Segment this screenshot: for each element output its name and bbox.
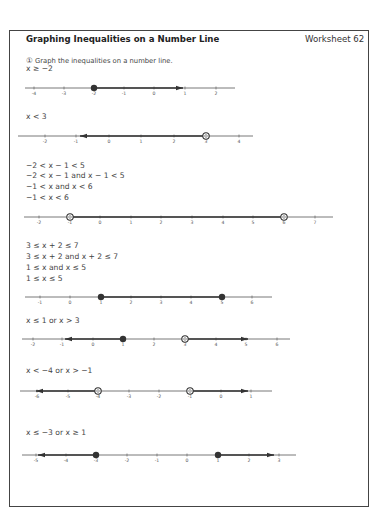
tick-label: -5 bbox=[66, 394, 71, 399]
tick-label: 0 bbox=[220, 394, 223, 399]
tick-label: -2 bbox=[43, 139, 48, 144]
tick-label: -4 bbox=[96, 394, 101, 399]
tick-label: 4 bbox=[215, 342, 218, 347]
tick-label: -2 bbox=[125, 458, 130, 463]
tick-label: -1 bbox=[38, 300, 43, 305]
number-line: -6-5-4-3-2-101 bbox=[20, 388, 272, 399]
tick-label: 5 bbox=[221, 300, 224, 305]
tick-label: 3 bbox=[184, 342, 187, 347]
number-line: -10123456 bbox=[25, 294, 272, 305]
closed-dot-icon bbox=[219, 294, 225, 300]
tick-label: 5 bbox=[252, 220, 255, 225]
arrow-left-icon bbox=[38, 453, 45, 457]
tick-label: -4 bbox=[32, 91, 37, 96]
tick-label: -2 bbox=[31, 342, 36, 347]
tick-label: 6 bbox=[251, 300, 254, 305]
tick-label: 1 bbox=[100, 300, 103, 305]
number-line: -2-10123456 bbox=[22, 336, 290, 347]
tick-label: 2 bbox=[153, 342, 156, 347]
tick-label: 0 bbox=[108, 139, 111, 144]
closed-dot-icon bbox=[98, 294, 104, 300]
number-line: -2-101234 bbox=[18, 133, 253, 144]
tick-label: -1 bbox=[60, 342, 65, 347]
tick-label: 1 bbox=[184, 91, 187, 96]
tick-label: 3 bbox=[278, 458, 281, 463]
arrow-left-icon bbox=[65, 337, 72, 341]
tick-label: -2 bbox=[92, 91, 97, 96]
tick-label: 0 bbox=[92, 342, 95, 347]
tick-label: 2 bbox=[130, 300, 133, 305]
open-circle-icon bbox=[187, 388, 193, 394]
closed-dot-icon bbox=[93, 452, 99, 458]
arrow-right-icon bbox=[267, 453, 274, 457]
tick-label: 3 bbox=[160, 300, 163, 305]
arrow-left-icon bbox=[80, 134, 87, 138]
tick-label: -6 bbox=[35, 394, 40, 399]
open-circle-icon bbox=[182, 336, 188, 342]
tick-label: 1 bbox=[140, 139, 143, 144]
tick-label: 3 bbox=[205, 139, 208, 144]
tick-label: 2 bbox=[160, 220, 163, 225]
tick-label: -3 bbox=[62, 91, 67, 96]
open-circle-icon bbox=[281, 214, 287, 220]
open-circle-icon bbox=[203, 133, 209, 139]
number-line: -2-101234567 bbox=[24, 214, 333, 225]
arrow-right-icon bbox=[241, 337, 248, 341]
closed-dot-icon bbox=[215, 452, 221, 458]
tick-label: 2 bbox=[215, 91, 218, 96]
tick-label: 1 bbox=[122, 342, 125, 347]
number-line: -5-4-3-2-10123 bbox=[22, 452, 296, 463]
tick-label: -2 bbox=[157, 394, 162, 399]
tick-label: -4 bbox=[64, 458, 69, 463]
tick-label: 1 bbox=[217, 458, 220, 463]
tick-label: 0 bbox=[99, 220, 102, 225]
tick-label: -1 bbox=[74, 139, 79, 144]
tick-label: -3 bbox=[127, 394, 132, 399]
tick-label: -2 bbox=[37, 220, 42, 225]
number-line: -4-3-2-1012 bbox=[25, 85, 235, 96]
tick-label: 0 bbox=[186, 458, 189, 463]
arrow-left-icon bbox=[36, 389, 43, 393]
tick-label: 6 bbox=[276, 342, 279, 347]
tick-label: 0 bbox=[153, 91, 156, 96]
tick-label: -1 bbox=[155, 458, 160, 463]
tick-label: 2 bbox=[173, 139, 176, 144]
tick-label: 6 bbox=[283, 220, 286, 225]
tick-label: -1 bbox=[122, 91, 127, 96]
closed-dot-icon bbox=[91, 85, 97, 91]
arrow-right-icon bbox=[176, 86, 183, 90]
closed-dot-icon bbox=[120, 336, 126, 342]
tick-label: 4 bbox=[222, 220, 225, 225]
tick-label: 4 bbox=[190, 300, 193, 305]
tick-label: 7 bbox=[314, 220, 317, 225]
open-circle-icon bbox=[67, 214, 73, 220]
tick-label: 1 bbox=[250, 394, 253, 399]
tick-label: 4 bbox=[238, 139, 241, 144]
tick-label: -3 bbox=[94, 458, 99, 463]
open-circle-icon bbox=[95, 388, 101, 394]
tick-label: 1 bbox=[130, 220, 133, 225]
tick-label: -1 bbox=[188, 394, 193, 399]
number-lines: -4-3-2-1012-2-101234-2-101234567-1012345… bbox=[0, 0, 391, 527]
tick-label: 5 bbox=[245, 342, 248, 347]
tick-label: 0 bbox=[69, 300, 72, 305]
tick-label: 3 bbox=[191, 220, 194, 225]
arrow-right-icon bbox=[241, 389, 248, 393]
tick-label: -1 bbox=[68, 220, 73, 225]
tick-label: 2 bbox=[248, 458, 251, 463]
tick-label: -5 bbox=[34, 458, 39, 463]
